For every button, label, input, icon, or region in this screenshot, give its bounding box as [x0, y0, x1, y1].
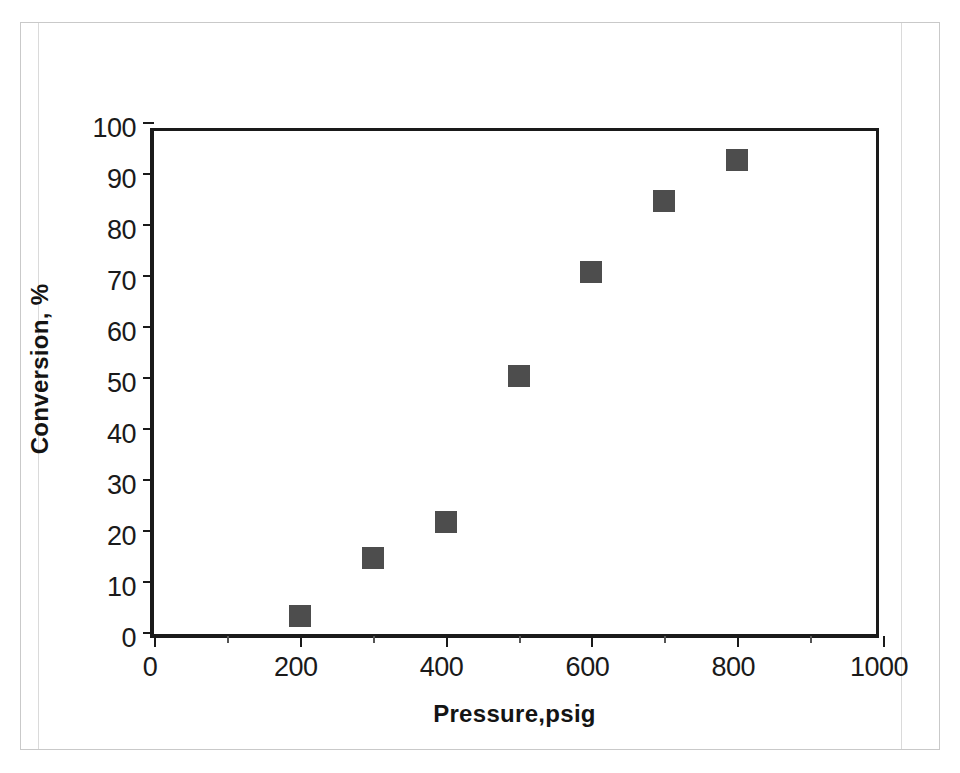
- y-axis-tick-label: 60: [107, 317, 136, 348]
- y-axis-tick-label: 20: [107, 521, 136, 552]
- x-axis-minor-tick: [664, 636, 666, 643]
- data-point-marker: [435, 511, 457, 533]
- y-axis-tick: [143, 479, 154, 481]
- y-axis-tick: [143, 326, 154, 328]
- data-point-marker: [289, 605, 311, 627]
- x-axis-tick: [591, 636, 593, 647]
- x-axis-tick-label: 200: [274, 652, 318, 683]
- x-axis-tick: [446, 636, 448, 647]
- x-axis-tick-label: 800: [711, 652, 755, 683]
- scatter-chart: 0102030405060708090100 02004006008001000…: [0, 0, 960, 773]
- y-axis-tick-label: 0: [121, 623, 136, 654]
- x-axis-tick: [737, 636, 739, 647]
- y-axis-tick: [143, 530, 154, 532]
- x-axis-minor-tick: [519, 636, 521, 643]
- y-axis-tick: [143, 173, 154, 175]
- y-axis-tick-label: 40: [107, 419, 136, 450]
- y-axis-tick-label: 70: [107, 266, 136, 297]
- x-axis-minor-tick: [227, 636, 229, 643]
- data-point-marker: [362, 547, 384, 569]
- x-axis-minor-tick: [810, 636, 812, 643]
- x-axis-tick-label: 400: [420, 652, 464, 683]
- y-axis-tick-label: 10: [107, 572, 136, 603]
- x-axis-minor-tick: [373, 636, 375, 643]
- y-axis-tick-label: 30: [107, 470, 136, 501]
- x-axis-tick: [300, 636, 302, 647]
- x-axis-tick: [883, 636, 885, 647]
- y-axis-tick-label: 50: [107, 368, 136, 399]
- plot-area: [150, 128, 879, 638]
- x-axis-title: Pressure,psig: [150, 700, 879, 728]
- data-point-marker: [580, 261, 602, 283]
- y-axis-tick: [143, 122, 154, 124]
- x-axis-tick-label: 600: [566, 652, 610, 683]
- data-point-marker: [508, 365, 530, 387]
- y-axis-tick-label: 80: [107, 215, 136, 246]
- y-axis-tick-label: 90: [107, 164, 136, 195]
- y-axis-tick: [143, 428, 154, 430]
- y-axis-tick: [143, 224, 154, 226]
- x-axis-tick-labels: 02004006008001000: [150, 652, 879, 692]
- x-axis-tick-label: 0: [143, 652, 158, 683]
- x-axis-tick: [154, 636, 156, 647]
- y-axis-tick: [143, 632, 154, 634]
- scanned-page: 0102030405060708090100 02004006008001000…: [0, 0, 960, 773]
- y-axis-tick-label: 100: [92, 113, 136, 144]
- y-axis-title: Conversion, %: [26, 219, 54, 519]
- y-axis-tick: [143, 275, 154, 277]
- data-point-marker: [726, 149, 748, 171]
- y-axis-tick-labels: 0102030405060708090100: [48, 128, 136, 638]
- x-axis-tick-label: 1000: [850, 652, 908, 683]
- y-axis-tick: [143, 377, 154, 379]
- y-axis-tick: [143, 581, 154, 583]
- data-point-marker: [653, 190, 675, 212]
